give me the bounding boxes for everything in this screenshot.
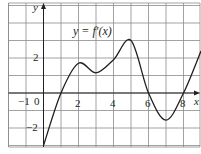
y-tick-label-neg2: −2 — [26, 122, 38, 133]
y-axis-label: y — [33, 2, 38, 13]
x-axis-label: x — [194, 96, 199, 107]
x-tick-label-4: 4 — [110, 98, 116, 109]
x-tick-label-0: 0 — [34, 96, 40, 107]
y-tick-label-2: 2 — [33, 52, 39, 63]
x-tick-label-neg1: −1 — [18, 96, 30, 107]
x-tick-label-6: 6 — [145, 98, 151, 109]
curve-label: y = f′(x) — [73, 25, 112, 37]
x-tick-label-2: 2 — [75, 98, 81, 109]
x-tick-label-8: 8 — [180, 98, 186, 109]
